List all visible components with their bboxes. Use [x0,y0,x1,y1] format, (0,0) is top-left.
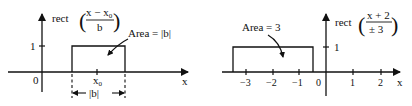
formula-denominator: b [97,21,103,33]
area-annotation: Area = |b| [128,27,171,39]
x-tick-1: 1 [350,77,355,88]
x-tick-neg2: −2 [266,77,277,88]
area-annotation: Area = 3 [242,21,281,33]
formula-denominator: ± 3 [369,23,384,35]
y-tick-1: 1 [334,41,340,53]
x0-label: x0 [93,74,103,88]
y-axis-label: rect [52,12,68,24]
width-label: |b| [89,87,99,99]
right-plot: 1 −3 −2 −1 0 1 2 x rect ( x + 2 ± 3 ) Ar… [222,9,403,96]
svg-text:): ) [391,12,398,37]
x-tick-neg3: −3 [240,77,251,88]
y-tick-1: 1 [30,40,36,52]
rect-pulse [233,47,313,72]
formula-numerator: x + 2 [367,9,390,21]
x-tick-2: 2 [378,77,383,88]
y-axis-label: rect [335,16,351,28]
svg-text:): ) [113,8,120,33]
x-tick-neg1: −1 [292,77,303,88]
x-axis-label: x [182,75,188,87]
rect-function-diagram: 1 0 x0 x |b| rect ( x − x0 b ) Area = |b… [0,0,412,106]
x-axis-label: x [397,76,403,88]
origin-label: 0 [33,74,39,86]
formula-numerator: x − x0 [86,6,113,20]
origin-label: 0 [316,77,321,88]
svg-text:(: ( [358,12,365,37]
rect-pulse [72,46,125,72]
left-plot: 1 0 x0 x |b| rect ( x − x0 b ) Area = |b… [8,6,188,99]
